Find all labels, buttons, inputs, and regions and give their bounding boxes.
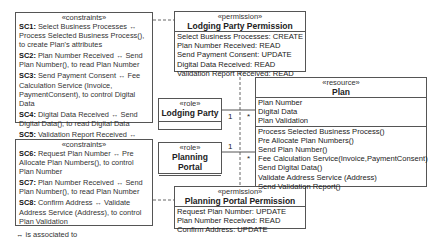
role-title: Lodging Party — [159, 108, 221, 118]
permission-line: Plan Number Received: READ — [175, 41, 305, 50]
constraint-sc2: SC2: Plan Number Received ↔ Send Plan Nu… — [16, 51, 152, 71]
constraint-sc4: SC4: Digital Data Received ↔ Send Digita… — [16, 110, 152, 130]
constraints-box-bottom: «constraints» SC6: Request Plan Number ↔… — [15, 139, 153, 226]
planning-permission-box: «permission» Planning Portal Permission … — [174, 186, 306, 229]
resource-operation: Send Validation Report() — [256, 182, 426, 191]
resource-operation: Send Plan Number() — [256, 145, 426, 154]
role-stereotype: «role» — [159, 99, 221, 108]
resource-title: Plan — [256, 87, 426, 97]
multiplicity: 1 — [228, 142, 232, 151]
constraints-stereotype: «constraints» — [16, 140, 152, 149]
resource-operation: Validate Address Service (Address) — [256, 173, 426, 182]
constraint-sc8: SC8: Confirm Address ↔ Validate Address … — [16, 198, 152, 227]
resource-stereotype: «resource» — [256, 78, 426, 87]
permission-line: Digital Data Received: READ — [175, 60, 305, 69]
constraint-sc3: SC3: Send Payment Consent ↔ Fee Calculat… — [16, 71, 152, 109]
constraint-sc6: SC6: Request Plan Number ↔ Pre Allocate … — [16, 149, 152, 178]
permission-title: Lodging Party Permission — [175, 21, 305, 31]
resource-operation: Pre Allocate Plan Numbers() — [256, 136, 426, 145]
role-planning-portal: «role» Planning Portal — [158, 142, 222, 174]
resource-operation: Process Selected Business Process() — [256, 127, 426, 136]
role-title: Planning Portal — [159, 152, 221, 172]
lodging-permission-box: «permission» Lodging Party Permission Se… — [174, 11, 306, 72]
resource-attribute: Plan Validation — [256, 116, 426, 125]
role-stereotype: «role» — [159, 143, 221, 152]
resource-operation: Fee Calculation Service(Invoice,PaymentC… — [256, 154, 426, 163]
multiplicity: * — [247, 112, 250, 121]
permission-line: Plan Number Received: READ — [175, 216, 305, 225]
permission-line: Send Payment Consent: UPDATE — [175, 50, 305, 59]
resource-attribute: Digital Data — [256, 107, 426, 116]
resource-operation: Send Digital Data() — [256, 163, 426, 172]
permission-stereotype: «permission» — [175, 12, 305, 21]
multiplicity: * — [247, 154, 250, 163]
permission-title: Planning Portal Permission — [175, 196, 305, 206]
permission-line: Request Plan Number: UPDATE — [175, 207, 305, 216]
permission-line: Confirm Address: UPDATE — [175, 225, 305, 234]
resource-plan-box: «resource» Plan Plan Number Digital Data… — [255, 77, 427, 187]
constraints-stereotype: «constraints» — [16, 13, 152, 22]
constraint-sc7: SC7: Plan Number Received ↔ Send Plan Nu… — [16, 178, 152, 198]
legend: ↔ is associated to — [16, 230, 77, 239]
role-lodging-party: «role» Lodging Party — [158, 98, 222, 130]
multiplicity: 1 — [228, 112, 232, 121]
permission-line: Select Business Processes: CREATE — [175, 32, 305, 41]
constraint-sc1: SC1: Select Business Processes ↔ Process… — [16, 22, 152, 51]
constraints-box-top: «constraints» SC1: Select Business Proce… — [15, 12, 153, 123]
resource-attribute: Plan Number — [256, 98, 426, 107]
